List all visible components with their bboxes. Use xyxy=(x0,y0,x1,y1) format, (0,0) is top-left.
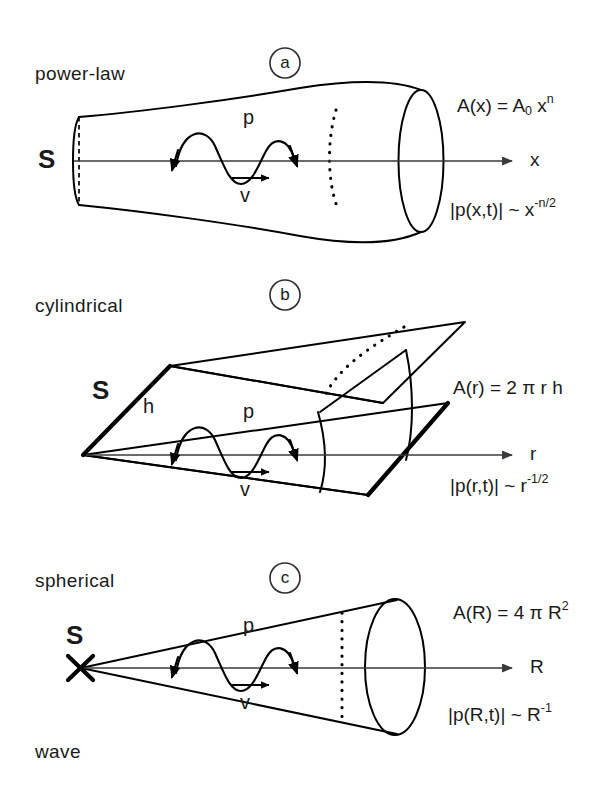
panel-c-category-label-second-line: wave xyxy=(34,741,81,762)
panel-a-area-formula-sup: n xyxy=(547,92,554,106)
panel-c-amplitude-formula-sup: -1 xyxy=(541,701,552,715)
panel-c-amplitude-formula: |p(R,t)| ~ R-1 xyxy=(448,701,552,725)
panel-a-area-formula-sub: 0 xyxy=(525,104,532,118)
panel-c-area-formula-sup: 2 xyxy=(562,599,569,613)
figure-root: power-law a x p v S A(x) = A0 xn xyxy=(0,0,612,785)
panel-c-velocity-label: v xyxy=(240,691,250,713)
panel-a-letter: a xyxy=(280,53,290,72)
panel-c-letter: c xyxy=(281,568,290,587)
panel-c-axis-label: R xyxy=(530,656,544,677)
panel-c-amplitude-formula-lhs: |p(R,t)| ~ R xyxy=(448,704,541,725)
panel-a-velocity-label: v xyxy=(240,184,250,206)
panel-b-amplitude-formula-sup: -1/2 xyxy=(527,472,549,486)
panel-a-category-label: power-law xyxy=(35,63,125,84)
panel-a-area-formula: A(x) = A0 xn xyxy=(457,92,554,118)
panel-a-pressure-label: p xyxy=(243,106,254,128)
panel-a-amplitude-formula-sup: -n/2 xyxy=(534,196,556,210)
panel-c-category-label: spherical xyxy=(35,570,115,591)
panel-b-area-formula-lhs: A(r) = 2 π r h xyxy=(453,377,563,398)
panel-b-amplitude-formula-lhs: |p(r,t)| ~ r xyxy=(450,475,528,496)
panel-b-letter: b xyxy=(280,285,289,304)
panel-c-area-formula: A(R) = 4 π R2 xyxy=(453,599,569,623)
panel-a-axis-label: x xyxy=(530,149,540,170)
panel-a-area-formula-lhs: A(x) = A xyxy=(457,95,525,116)
panel-b-height-label: h xyxy=(143,395,154,417)
panel-a-amplitude-formula-lhs: |p(x,t)| ~ x xyxy=(450,199,535,220)
panel-b-velocity-label: v xyxy=(240,478,250,500)
panel-c-area-formula-lhs: A(R) = 4 π R xyxy=(453,602,562,623)
panel-b-axis-label: r xyxy=(530,443,537,464)
panel-a-source-label: S xyxy=(38,144,55,174)
wave-spreading-figure: power-law a x p v S A(x) = A0 xn xyxy=(0,0,612,785)
panel-b-pressure-label: p xyxy=(243,400,254,422)
panel-b-source-label: S xyxy=(92,375,109,405)
panel-b-area-formula: A(r) = 2 π r h xyxy=(453,377,563,398)
panel-b-category-label: cylindrical xyxy=(35,295,123,316)
panel-c-source-label: S xyxy=(66,620,83,650)
panel-a-area-formula-mid: x xyxy=(532,95,547,116)
panel-c-pressure-label: p xyxy=(243,614,254,636)
